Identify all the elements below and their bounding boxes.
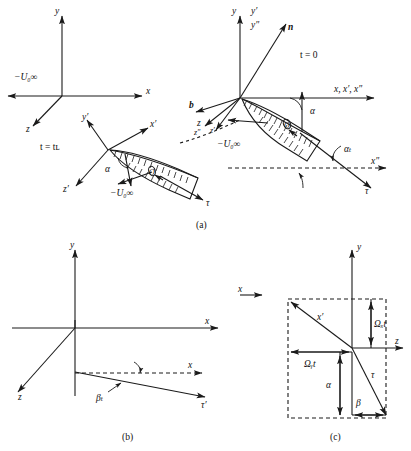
label-wing-point-tL: O <box>149 168 155 177</box>
label-axis-z-panel-c: z <box>394 336 399 346</box>
label-axis-xp-panel-c: x′ <box>316 312 324 322</box>
panel-a-inertial-frame <box>8 16 142 126</box>
caption-panel-c: (c) <box>330 432 341 443</box>
label-velocity-tL: −U₀∞ <box>110 188 134 198</box>
beta-t-arrow <box>108 383 121 392</box>
label-angle-alpha-panel-c: α <box>326 380 332 390</box>
label-angle-alpha-t0: α <box>310 106 316 116</box>
rotation-arrow-t0 <box>299 173 303 188</box>
label-velocity-inertial: −U₀∞ <box>14 72 38 82</box>
label-tangent-tau-prime: τ′ <box>201 400 207 410</box>
label-omega-x-t: Ωₓt <box>374 319 387 329</box>
label-tangent-tau-t0: τ <box>365 186 369 196</box>
normal-vector-n <box>240 24 286 98</box>
tangent-vector-tau-prime <box>75 372 205 397</box>
panel-b-axes <box>12 250 218 397</box>
label-axis-y-panel-c: y <box>356 242 362 252</box>
label-axis-zp-tL: z′ <box>62 184 70 194</box>
label-axis-y-t0: y <box>231 6 237 16</box>
velocity-arrow-tL <box>118 172 152 184</box>
alpha-arc-t0 <box>290 98 302 110</box>
label-axis-ypp-t0: y″ <box>250 20 260 30</box>
axis-xp-tL <box>108 128 148 150</box>
label-normal-vector-n: n <box>288 22 293 32</box>
tangent-vector-tau-tL <box>160 176 203 200</box>
label-axis-z-inertial: z <box>25 124 30 134</box>
axis-z-panel-b <box>18 328 75 392</box>
axis-yp-tL <box>87 120 108 150</box>
panel-c-axes <box>240 250 403 418</box>
velocity-arrow-t0 <box>228 120 268 123</box>
label-binormal-vector-b: b <box>189 100 194 110</box>
figure-root: y x z −U₀∞ y y′ y″ n b t = 0 x, x′, x″ z… <box>0 0 411 451</box>
rotation-arrow-panel-b <box>134 362 140 373</box>
caption-panel-b: (b) <box>122 432 133 443</box>
figure-canvas: y x z −U₀∞ y y′ y″ n b t = 0 x, x′, x″ z… <box>0 0 411 451</box>
label-axis-y-inertial: y <box>54 6 60 16</box>
binormal-vector-b <box>196 98 240 112</box>
label-axis-x-group-t0: x, x′, x″ <box>333 84 363 94</box>
label-angle-alpha-t: αₜ <box>344 144 352 154</box>
label-axis-xpp-dashed: x″ <box>370 156 380 166</box>
label-axis-z-panel-b: z <box>17 392 22 402</box>
label-tangent-tau-tL: τ <box>206 198 210 208</box>
label-angle-beta-panel-c: β <box>355 398 361 408</box>
label-axis-x-inertial: x <box>145 86 151 96</box>
label-angle-beta-t: βₜ <box>95 393 104 403</box>
label-angle-alpha-tL: α <box>105 164 111 174</box>
label-wing-point-t0: O <box>284 121 290 130</box>
label-axis-yp-tL: y′ <box>81 112 89 122</box>
caption-panel-a: (a) <box>196 220 207 231</box>
label-time-tL: t = tʟ <box>40 142 59 152</box>
label-tangent-tau-panel-c: τ <box>371 370 375 380</box>
axis-xp-panel-c <box>291 302 352 348</box>
wing-outline-t0 <box>242 99 320 161</box>
label-axis-x-lower-panel-b: x <box>187 360 193 370</box>
wing-planform-t0 <box>242 99 320 161</box>
label-velocity-t0: −U₀∞ <box>217 139 241 149</box>
label-axis-zpp-t0: z″ <box>193 128 201 137</box>
label-axis-xp-tL: x′ <box>149 119 157 129</box>
tangent-vector-tau-t0 <box>300 133 371 188</box>
label-axis-zp-t0: z′ <box>209 126 215 135</box>
panel-a-t0-frame <box>196 16 374 130</box>
label-axis-z-t0: z <box>196 118 201 128</box>
axis-zp-tL <box>76 150 108 186</box>
label-axis-yp-t0: y′ <box>250 6 258 16</box>
label-omega-y-t: Ωᵧt <box>304 359 316 369</box>
label-axis-x-panel-c: x <box>237 284 243 294</box>
label-axis-x-panel-b: x <box>204 316 210 326</box>
axis-z-inertial <box>33 96 62 126</box>
label-time-t0: t = 0 <box>300 50 318 60</box>
label-axis-y-panel-b: y <box>69 240 75 250</box>
